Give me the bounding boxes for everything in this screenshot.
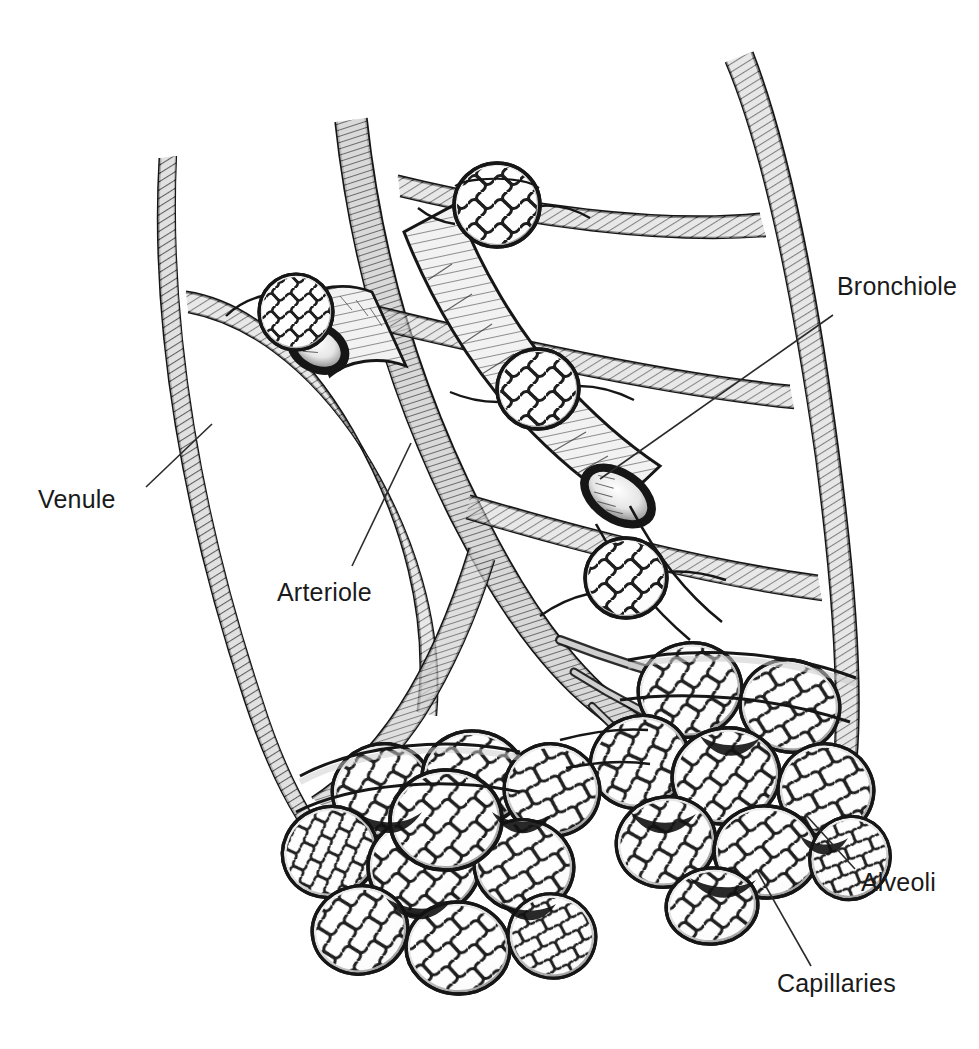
label-venule: Venule [38,485,116,513]
alveoli-illustration: Venule Arteriole Bronchiole Alveoli Capi… [0,0,979,1049]
alveolar-sac-left [269,724,612,997]
figure-canvas: Venule Arteriole Bronchiole Alveoli Capi… [0,0,979,1049]
label-bronchiole: Bronchiole [837,272,957,300]
leader-bronchiole [600,315,833,479]
label-capillaries: Capillaries [777,969,896,997]
alveolar-sac-right [577,633,903,948]
label-arteriole: Arteriole [277,578,372,606]
venule-vessel [158,156,344,862]
label-alveoli: Alveoli [861,868,936,896]
